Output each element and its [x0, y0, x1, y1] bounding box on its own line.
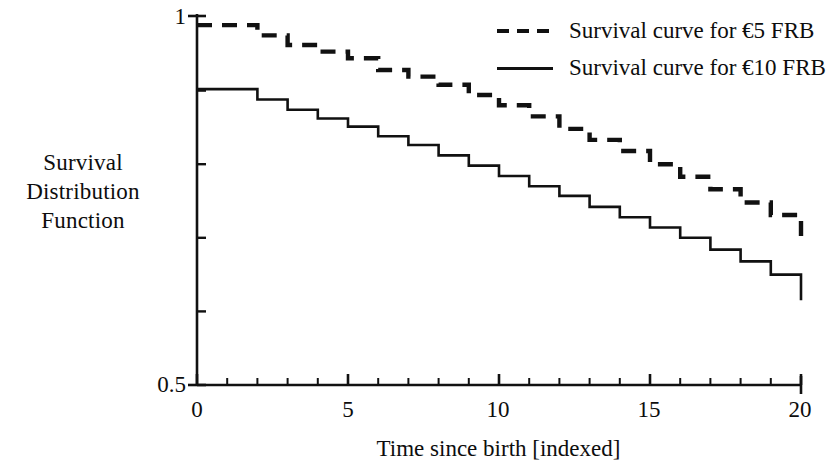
legend-entry-eur5: Survival curve for €5 FRB — [497, 14, 837, 51]
survival-curve-eur10 — [197, 89, 801, 300]
legend-solid-line-icon — [497, 67, 553, 70]
legend-dashed-line-icon — [497, 29, 553, 33]
y-axis-ticks — [197, 91, 206, 312]
legend-label-eur5: Survival curve for €5 FRB — [569, 14, 814, 47]
legend-entry-eur10: Survival curve for €10 FRB — [497, 51, 837, 88]
x-axis-tick-label-20: 20 — [775, 397, 825, 423]
y-axis-tick-label-0.5: 0.5 — [108, 373, 186, 396]
x-axis-title: Time since birth [indexed] — [197, 436, 800, 462]
y-axis-tick-label-1: 1 — [108, 5, 186, 28]
y-axis-title-line-2: Distribution — [8, 177, 158, 206]
y-axis-title: Survival Distribution Function — [8, 148, 158, 235]
y-axis-title-line-1: Survival — [8, 148, 158, 177]
legend-label-eur10: Survival curve for €10 FRB — [569, 51, 826, 84]
x-axis-tick-label-5: 5 — [323, 397, 373, 423]
survival-curve-figure: Survival Distribution Function 1 0.5 0 5… — [0, 0, 840, 470]
chart-legend: Survival curve for €5 FRB Survival curve… — [497, 14, 837, 88]
x-axis-tick-label-0: 0 — [172, 397, 222, 423]
x-axis-tick-label-10: 10 — [473, 397, 523, 423]
x-axis-tick-label-15: 15 — [624, 397, 674, 423]
x-axis-ticks — [197, 374, 801, 385]
y-axis-title-line-3: Function — [8, 206, 158, 235]
